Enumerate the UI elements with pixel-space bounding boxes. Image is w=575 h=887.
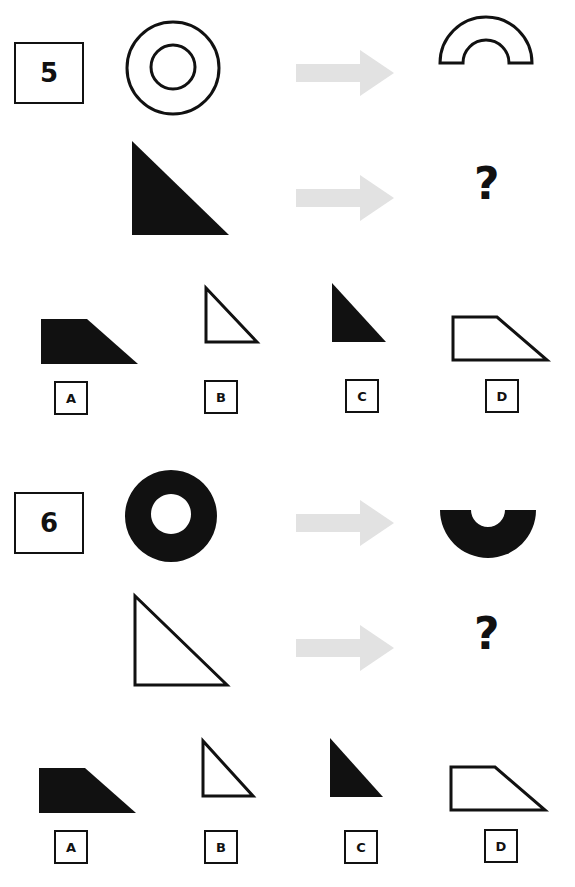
arrow-right-icon: [296, 50, 394, 96]
upper-half-ring-outline-shape: [438, 17, 534, 65]
option-d-outline-trapezoid-shape[interactable]: [449, 765, 549, 813]
question-mark-icon: ?: [474, 162, 500, 206]
arrow-right-icon: [296, 625, 394, 671]
option-d-button[interactable]: D: [485, 379, 519, 413]
puzzle-number-box: 6: [14, 492, 84, 554]
option-c-button[interactable]: C: [345, 379, 379, 413]
option-b-outline-triangle-shape[interactable]: [204, 285, 260, 345]
option-c-button[interactable]: C: [344, 830, 378, 864]
option-d-outline-trapezoid-shape[interactable]: [451, 315, 551, 363]
option-a-button[interactable]: A: [54, 381, 88, 415]
option-c-filled-triangle-shape[interactable]: [330, 738, 386, 798]
option-a-filled-trapezoid-shape[interactable]: [39, 768, 137, 814]
lower-half-ring-filled-shape: [440, 510, 536, 558]
option-b-outline-triangle-shape[interactable]: [201, 738, 257, 798]
double-circle-outline-shape: [125, 20, 221, 116]
outline-right-triangle-shape: [133, 593, 231, 688]
option-c-filled-triangle-shape[interactable]: [332, 283, 388, 343]
arrow-right-icon: [296, 175, 394, 221]
option-a-button[interactable]: A: [54, 830, 88, 864]
option-a-filled-trapezoid-shape[interactable]: [41, 319, 139, 365]
arrow-right-icon: [296, 500, 394, 546]
filled-ring-shape: [125, 470, 217, 562]
option-b-button[interactable]: B: [204, 380, 238, 414]
option-d-button[interactable]: D: [484, 829, 518, 863]
puzzle-number-box: 5: [14, 42, 84, 104]
question-mark-icon: ?: [474, 612, 500, 656]
option-b-button[interactable]: B: [204, 830, 238, 864]
filled-right-triangle-shape: [132, 141, 230, 236]
